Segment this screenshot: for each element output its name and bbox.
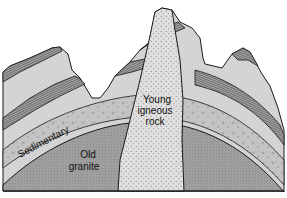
- label-old-granite-1: Old: [80, 149, 96, 160]
- geology-cross-section: Sedimentary Old granite Young igneous ro…: [0, 0, 287, 198]
- label-young-2: igneous: [137, 105, 172, 116]
- label-young-1: Young: [143, 94, 171, 105]
- label-young-3: rock: [146, 116, 166, 127]
- label-old-granite-2: granite: [69, 161, 100, 172]
